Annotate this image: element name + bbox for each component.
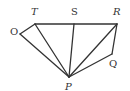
segment-rp (69, 24, 117, 77)
point-label-s: S (71, 6, 78, 17)
point-label-t: T (31, 6, 39, 17)
segment-sp (69, 24, 74, 77)
segment-tp (35, 24, 69, 77)
point-label-r: R (112, 6, 121, 17)
point-label-p: P (64, 81, 72, 91)
geometry-diagram: O T S R Q P (0, 0, 130, 91)
diagram-edges (20, 24, 117, 77)
point-label-o: O (10, 26, 18, 37)
segment-qp (69, 54, 112, 77)
diagram-labels: O T S R Q P (10, 6, 121, 91)
segment-op (20, 34, 69, 77)
segment-ot (20, 24, 35, 34)
point-label-q: Q (109, 58, 117, 69)
